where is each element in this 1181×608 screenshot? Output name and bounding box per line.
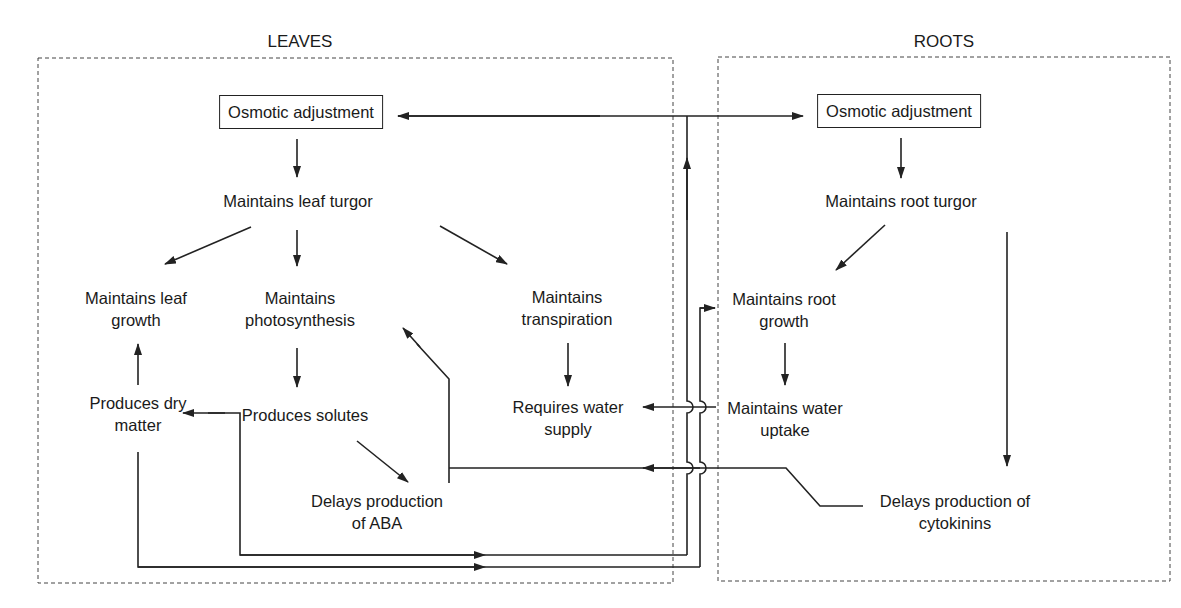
leaves-region-title: LEAVES xyxy=(200,32,400,52)
leaf-turgor-node: Maintains leaf turgor xyxy=(223,190,373,212)
water-uptake-node: Maintains water uptake xyxy=(727,397,843,441)
aba-line2: of ABA xyxy=(311,512,443,534)
cytokinins-line1: Delays production of xyxy=(880,490,1030,512)
root-turgor-node: Maintains root turgor xyxy=(825,190,976,212)
root-growth-line2: growth xyxy=(732,310,836,332)
delays-cytokinins-node: Delays production of cytokinins xyxy=(880,490,1030,534)
dry-matter-node: Produces dry matter xyxy=(89,392,186,436)
water-supply-line2: supply xyxy=(513,418,624,440)
root-turgor-label: Maintains root turgor xyxy=(825,192,976,210)
root-growth-node: Maintains root growth xyxy=(732,288,836,332)
water-supply-line1: Requires water xyxy=(513,396,624,418)
leaf-osmotic-label: Osmotic adjustment xyxy=(228,103,374,121)
solutes-label: Produces solutes xyxy=(242,406,369,424)
transpiration-line2: transpiration xyxy=(522,308,613,330)
dry-matter-line1: Produces dry xyxy=(89,392,186,414)
roots-region-title: ROOTS xyxy=(844,32,1044,52)
water-supply-node: Requires water supply xyxy=(513,396,624,440)
photosynthesis-line1: Maintains xyxy=(245,287,355,309)
dry-matter-line2: matter xyxy=(89,414,186,436)
transpiration-line1: Maintains xyxy=(522,286,613,308)
root-growth-line1: Maintains root xyxy=(732,288,836,310)
photosynthesis-line2: photosynthesis xyxy=(245,309,355,331)
leaf-turgor-label: Maintains leaf turgor xyxy=(223,192,373,210)
delays-aba-node: Delays production of ABA xyxy=(311,490,443,534)
aba-line1: Delays production xyxy=(311,490,443,512)
leaf-growth-node: Maintains leaf growth xyxy=(85,287,187,331)
water-uptake-line2: uptake xyxy=(727,419,843,441)
produces-solutes-node: Produces solutes xyxy=(242,404,369,426)
cytokinins-line2: cytokinins xyxy=(880,512,1030,534)
leaf-osmotic-adjustment-node: Osmotic adjustment xyxy=(219,95,383,129)
transpiration-node: Maintains transpiration xyxy=(522,286,613,330)
root-osmotic-adjustment-node: Osmotic adjustment xyxy=(817,94,981,128)
root-osmotic-label: Osmotic adjustment xyxy=(826,102,972,120)
leaf-growth-line2: growth xyxy=(85,309,187,331)
photosynthesis-node: Maintains photosynthesis xyxy=(245,287,355,331)
water-uptake-line1: Maintains water xyxy=(727,397,843,419)
leaf-growth-line1: Maintains leaf xyxy=(85,287,187,309)
